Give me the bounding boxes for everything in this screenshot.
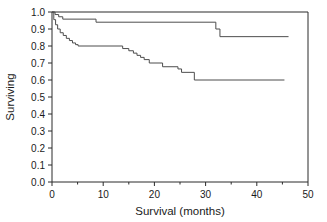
y-tick-label: 0.5 [31, 92, 45, 103]
survival-plot-figure: 0.00.10.20.30.40.50.60.70.80.91.0 010203… [0, 0, 327, 222]
y-tick-label: 0.3 [31, 126, 45, 137]
y-tick-label: 0.0 [31, 177, 45, 188]
y-tick-label: 0.9 [31, 24, 45, 35]
x-axis-title: Survival (months) [135, 205, 225, 217]
x-tick-label: 20 [149, 189, 161, 200]
survival-chart-canvas: 0.00.10.20.30.40.50.60.70.80.91.0 010203… [0, 0, 327, 222]
y-tick-label: 0.6 [31, 75, 45, 86]
y-axis-tick-labels: 0.00.10.20.30.40.50.60.70.80.91.0 [31, 7, 45, 188]
x-tick-label: 10 [98, 189, 110, 200]
y-tick-label: 0.1 [31, 160, 45, 171]
y-axis-title: Surviving [4, 73, 16, 120]
y-tick-label: 0.4 [31, 109, 45, 120]
y-tick-label: 0.8 [31, 41, 45, 52]
x-tick-label: 40 [251, 189, 263, 200]
x-tick-label: 0 [49, 189, 55, 200]
y-tick-label: 1.0 [31, 7, 45, 18]
x-tick-label: 30 [200, 189, 212, 200]
y-tick-label: 0.7 [31, 58, 45, 69]
x-tick-label: 50 [302, 189, 314, 200]
y-tick-label: 0.2 [31, 143, 45, 154]
